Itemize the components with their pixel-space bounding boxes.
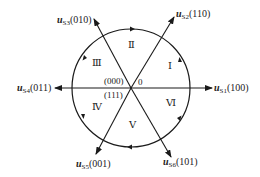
label-us6: uS6(101) — [163, 156, 198, 169]
sector-4-label: Ⅳ — [92, 101, 103, 112]
arrow-head-icon — [127, 145, 132, 150]
space-vector-diagram: uS2(110) uS3(010) uS4(011) uS1(100) uS5(… — [0, 0, 260, 177]
sector-6-label: Ⅵ — [165, 97, 176, 108]
label-us4: uS4(011) — [17, 82, 51, 95]
sector-2-label: Ⅱ — [128, 39, 135, 50]
sector-1-label: Ⅰ — [168, 60, 172, 71]
arrow-head-icon — [130, 27, 135, 32]
sector-3-label: Ⅲ — [92, 57, 102, 68]
vector-lines — [55, 17, 212, 157]
sector-5-label: Ⅴ — [128, 119, 137, 130]
label-us5: uS5(001) — [76, 158, 111, 171]
arrow-head-icon — [83, 55, 88, 61]
label-us3: uS3(010) — [57, 14, 92, 27]
arrow-head-icon — [81, 114, 85, 119]
origin-label: 0 — [138, 77, 143, 87]
zero-vector-111: (111) — [104, 90, 123, 100]
label-us1: uS1(100) — [214, 82, 249, 95]
zero-vector-000: (000) — [104, 76, 124, 86]
label-us2: uS2(110) — [176, 8, 210, 21]
